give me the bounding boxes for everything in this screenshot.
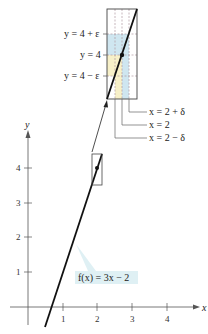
y-axis-label: y bbox=[24, 119, 30, 130]
y-minus-epsilon-label: y = 4 − ε bbox=[64, 70, 99, 81]
label-pointer bbox=[76, 244, 96, 271]
point-2-4 bbox=[95, 166, 99, 170]
y-tick-4: 4 bbox=[16, 163, 21, 173]
x-axis-label: x bbox=[201, 302, 207, 313]
y-tick-1: 1 bbox=[16, 267, 21, 277]
x-tick-4: 4 bbox=[165, 314, 170, 324]
x-leader-lines bbox=[115, 99, 147, 138]
x-plus-delta-label: x = 2 + δ bbox=[149, 106, 185, 117]
y-tick-2: 2 bbox=[16, 232, 21, 242]
x-tick-1: 1 bbox=[61, 314, 66, 324]
y-plus-epsilon-label: y = 4 + ε bbox=[64, 28, 99, 39]
function-line bbox=[45, 154, 102, 327]
axes bbox=[10, 130, 200, 325]
x-tick-3: 3 bbox=[130, 314, 135, 324]
zoom-arrow bbox=[92, 104, 106, 152]
zoomed-point bbox=[120, 53, 124, 57]
y-equals-4-label: y = 4 bbox=[80, 49, 101, 60]
x-tick-2: 2 bbox=[95, 314, 100, 324]
epsilon-delta-diagram: x y 1 2 3 4 1 2 3 4 f(x) = 3x − 2 y bbox=[0, 0, 208, 334]
x-minus-delta-label: x = 2 − δ bbox=[149, 132, 185, 143]
function-label: f(x) = 3x − 2 bbox=[78, 272, 129, 284]
x-equals-2-label: x = 2 bbox=[149, 119, 170, 130]
y-tick-3: 3 bbox=[16, 198, 21, 208]
